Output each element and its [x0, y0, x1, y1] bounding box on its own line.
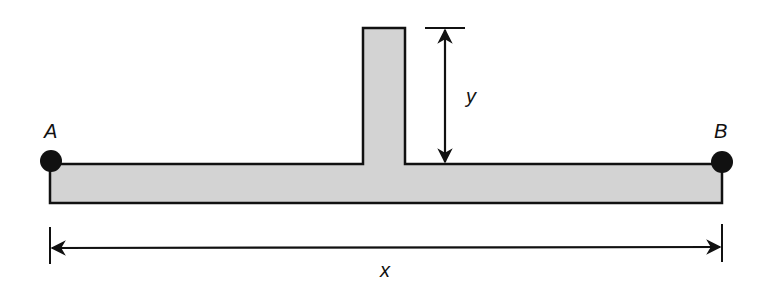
span-label: x	[379, 259, 391, 281]
height-label: y	[464, 85, 477, 107]
point-b-marker	[711, 151, 733, 173]
point-a-marker	[40, 150, 62, 172]
t-beam-diagram: A B y x	[0, 0, 769, 290]
point-a-label: A	[43, 120, 57, 142]
point-b-label: B	[714, 120, 727, 142]
t-beam-shape	[50, 28, 722, 203]
span-dimension-arrow	[52, 247, 720, 248]
